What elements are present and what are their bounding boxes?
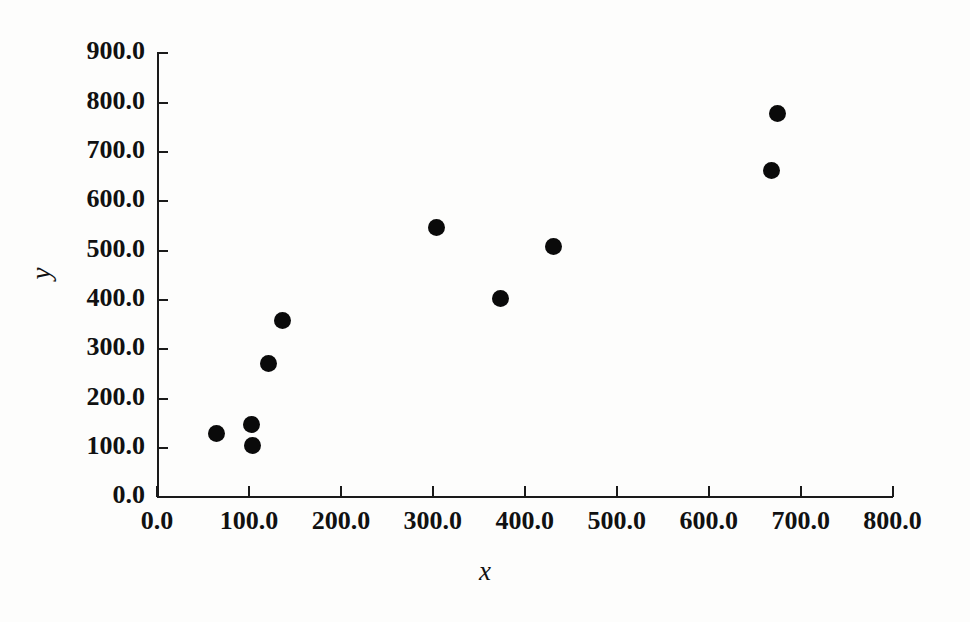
y-axis-tick-label: 300.0 [20, 332, 145, 362]
data-point [428, 219, 445, 236]
y-axis-tick-label: 600.0 [20, 184, 145, 214]
y-axis-tick-label: 200.0 [20, 382, 145, 412]
data-point [545, 238, 562, 255]
data-point [274, 312, 291, 329]
y-axis-tick-label: 900.0 [20, 36, 145, 66]
data-point [244, 437, 261, 454]
plot-area [157, 53, 893, 497]
data-point [260, 355, 277, 372]
data-point [763, 162, 780, 179]
data-point [208, 425, 225, 442]
scatter-plot-figure: 0.0100.0200.0300.0400.0500.0600.0700.080… [0, 0, 970, 622]
data-point [243, 416, 260, 433]
data-point [492, 290, 509, 307]
x-axis-label: x [0, 556, 970, 587]
y-axis-label: y [26, 247, 57, 301]
data-point [769, 105, 786, 122]
x-axis-tick-label: 800.0 [823, 506, 963, 536]
y-axis-tick-label: 700.0 [20, 135, 145, 165]
y-axis-tick-label: 800.0 [20, 86, 145, 116]
y-axis-tick-label: 100.0 [20, 431, 145, 461]
